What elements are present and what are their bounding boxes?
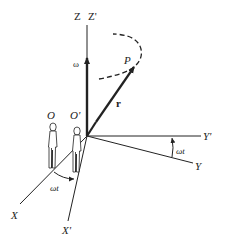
observer-o-prime-label: O' <box>70 109 81 121</box>
z-axis-label: Z <box>74 10 81 22</box>
position-vector-base <box>87 122 96 136</box>
y-axis-label: Y <box>195 160 203 172</box>
point-p-label: P <box>123 54 131 66</box>
x-axis-label: X <box>10 209 19 221</box>
angle-label-y: ωt <box>176 146 185 156</box>
angle-label-x: ωt <box>50 183 59 193</box>
omega-label: ω <box>73 59 79 69</box>
observer-o-prime-figure <box>73 127 82 172</box>
observer-o-label: O <box>47 109 55 121</box>
r-label: r <box>116 97 121 109</box>
z-prime-axis-label: Z' <box>88 10 97 22</box>
x-prime-axis-label: X' <box>61 224 72 236</box>
angle-arc-y <box>172 138 173 157</box>
trajectory-dashed-arc <box>99 34 141 79</box>
rotating-frame-diagram: Z Z' ω P r Y' Y ωt X X' ωt O O' <box>0 0 225 244</box>
observer-o-figure <box>49 123 58 168</box>
y-prime-axis-label: Y' <box>203 130 212 142</box>
angle-arc-x <box>54 172 74 179</box>
